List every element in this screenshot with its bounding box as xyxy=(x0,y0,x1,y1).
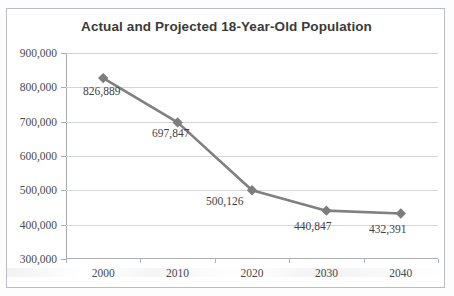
data-label-2010: 697,847 xyxy=(152,127,189,139)
x-tick-mark-4 xyxy=(364,259,365,263)
data-label-2040: 432,391 xyxy=(369,223,406,235)
data-label-2030: 440,847 xyxy=(294,220,331,232)
y-axis-label-900000: 900,000 xyxy=(20,47,57,59)
x-axis-label-2010: 2010 xyxy=(166,267,189,279)
x-axis-label-2000: 2000 xyxy=(92,267,115,279)
x-axis-label-2030: 2030 xyxy=(315,267,338,279)
x-tick-mark-end xyxy=(438,259,439,263)
data-label-2020: 500,126 xyxy=(206,195,243,207)
x-tick-mark-start xyxy=(66,259,67,263)
plot-area: 900,000 800,000 700,000 600,000 500,000 … xyxy=(66,53,438,259)
x-tick-mark-1 xyxy=(140,259,141,263)
data-label-2000: 826,889 xyxy=(83,85,120,97)
y-axis-label-400000: 400,000 xyxy=(20,219,57,231)
chart-frame: Actual and Projected 18-Year-Old Populat… xyxy=(6,8,445,288)
x-axis-label-2020: 2020 xyxy=(241,267,264,279)
y-axis-label-700000: 700,000 xyxy=(20,116,57,128)
x-tick-mark-3 xyxy=(289,259,290,263)
y-axis-label-500000: 500,000 xyxy=(20,184,57,196)
scanned-page-background: Actual and Projected 18-Year-Old Populat… xyxy=(0,0,454,296)
chart-title: Actual and Projected 18-Year-Old Populat… xyxy=(7,19,446,34)
y-axis-label-600000: 600,000 xyxy=(20,150,57,162)
data-point-marker-2030 xyxy=(321,205,331,215)
y-axis-label-800000: 800,000 xyxy=(20,81,57,93)
series-markers xyxy=(98,73,406,219)
x-axis-label-2040: 2040 xyxy=(389,267,412,279)
x-tick-mark-2 xyxy=(215,259,216,263)
y-axis-label-300000: 300,000 xyxy=(20,253,57,265)
data-point-marker-2040 xyxy=(396,208,406,218)
